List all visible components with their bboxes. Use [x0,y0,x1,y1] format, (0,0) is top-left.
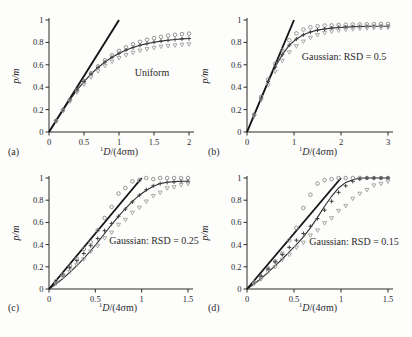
series-upper-circles [54,32,191,123]
y-tick-label: 0.4 [33,82,44,92]
annotation-gaussian-rsd-05: Gaussian: RSD = 0.5 [302,51,387,62]
x-tick-label: 0 [245,294,249,304]
series-middle-plus [54,37,191,123]
reference-line [49,20,119,132]
y-tick-label: 0.8 [33,195,44,205]
yaxis-label-d: p/m [199,217,213,249]
model-curve [247,178,388,289]
y-tick-label: 0.4 [231,82,242,92]
model-curve [247,26,388,132]
y-tick-label: 1 [237,15,241,25]
series-upper-circles [54,176,190,283]
annotation-gaussian-rsd-025: Gaussian: RSD = 0.25 [109,235,199,246]
y-tick-label: 0.4 [33,240,44,250]
figure: 00.511.5200.20.40.60.81012300.20.40.60.8… [0,0,412,337]
annotation-uniform: Uniform [135,67,169,78]
y-tick-label: 0.6 [231,60,242,70]
yaxis-label-b: p/m [199,60,213,92]
panel-letter-a: (a) [8,146,19,157]
panel-letter-b: (b) [208,146,220,157]
y-tick-label: 1 [39,15,43,25]
xlabel-rest: /(4σm) [309,302,337,313]
y-tick-label: 0.8 [231,37,242,47]
y-tick-label: 0.8 [231,195,242,205]
y-tick-label: 0.2 [33,262,44,272]
reference-line [247,178,341,289]
xaxis-label-b: 1D/(4σm) [258,145,378,157]
x-tick-label: 0 [47,294,51,304]
y-tick-label: 0 [237,127,241,137]
x-tick-label: 1.5 [183,294,194,304]
x-tick-label: 0 [47,137,51,147]
reference-line [49,178,142,289]
x-tick-label: 2 [187,137,191,147]
y-tick-label: 0.8 [33,37,44,47]
xaxis-label-a: 1D/(4σm) [59,145,179,157]
y-tick-label: 0 [39,127,43,137]
yaxis-label-c: p/m [10,217,24,249]
y-tick-label: 0.6 [33,60,44,70]
y-tick-label: 0.2 [231,262,242,272]
panel-(b): 012300.20.40.60.81 [231,15,393,147]
xlabel-rest: /(4σm) [309,146,337,157]
y-tick-label: 0.6 [33,217,44,227]
x-tick-label: 3 [386,137,390,147]
xaxis-label-d: 1D/(4σm) [258,301,378,313]
annotation-gaussian-rsd-015: Gaussian: RSD = 0.15 [309,236,399,247]
xlabel-rest: /(4σm) [110,146,138,157]
y-tick-label: 1 [237,173,241,183]
xlabel-rest: /(4σm) [109,302,137,313]
xaxis-label-c: 1D/(4σm) [58,301,178,313]
y-tick-label: 0 [237,284,241,294]
series-lower-triangles [54,43,191,124]
y-tick-label: 1 [39,173,43,183]
panel-(a): 00.511.5200.20.40.60.81 [33,15,194,147]
panel-letter-c: (c) [8,302,19,313]
x-tick-label: 0 [245,137,249,147]
y-tick-label: 0 [39,284,43,294]
y-tick-label: 0.6 [231,217,242,227]
series-lower-triangles [252,180,390,286]
y-tick-label: 0.4 [231,240,242,250]
y-tick-label: 0.2 [33,105,44,115]
yaxis-label-a: p/m [10,60,24,92]
x-tick-label: 1.5 [383,294,394,304]
panel-letter-d: (d) [208,302,220,313]
y-tick-label: 0.2 [231,105,242,115]
